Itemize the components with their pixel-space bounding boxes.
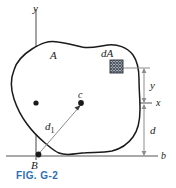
figure-caption: FIG. G-2 bbox=[16, 170, 58, 181]
b-axis-label: b bbox=[161, 150, 166, 161]
y-axis-label: y bbox=[32, 2, 38, 14]
centroid-point-marker bbox=[78, 100, 84, 106]
dimension-y-label: y bbox=[149, 79, 155, 91]
dimension-y bbox=[142, 68, 147, 103]
dimension-y-arrow-top bbox=[142, 68, 147, 73]
centroid-label: c bbox=[78, 89, 83, 100]
dimension-d-label: d bbox=[150, 124, 156, 136]
area-label: A bbox=[49, 49, 57, 61]
figure-container: y x b A dA c B y d d1 FIG. G-2 bbox=[0, 0, 176, 188]
dimension-d bbox=[142, 104, 147, 156]
area-boundary-path bbox=[11, 41, 140, 154]
area-outline bbox=[11, 41, 140, 154]
x-axis-label: x bbox=[155, 97, 161, 108]
origin-point-marker bbox=[33, 100, 38, 105]
dimension-d-arrow-top bbox=[142, 104, 147, 109]
element-area-square bbox=[110, 60, 123, 73]
element-area-label: dA bbox=[101, 47, 114, 59]
distance-d1-label-subscript: 1 bbox=[51, 126, 55, 135]
point-b-marker bbox=[36, 152, 42, 158]
figure-diagram: y x b A dA c B y d d1 bbox=[0, 0, 176, 188]
